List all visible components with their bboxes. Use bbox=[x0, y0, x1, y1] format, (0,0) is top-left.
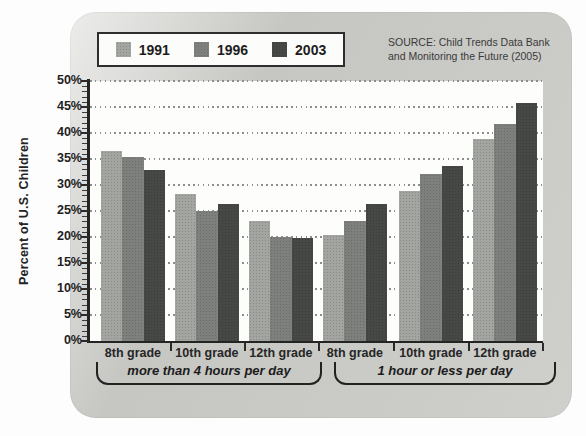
legend-label: 2003 bbox=[295, 42, 326, 58]
x-axis-tick bbox=[468, 343, 470, 351]
bar-2003 bbox=[292, 238, 313, 341]
legend-swatch-1991 bbox=[116, 42, 131, 57]
legend-swatch-1996 bbox=[194, 42, 209, 57]
y-tick-label: 0% bbox=[48, 333, 82, 347]
bar-1996 bbox=[270, 237, 291, 341]
legend-item-2003: 2003 bbox=[272, 42, 326, 58]
y-tick-label: 5% bbox=[48, 307, 82, 321]
y-major-tick bbox=[81, 262, 89, 264]
group-bracket-right: 1 hour or less per day bbox=[334, 362, 556, 385]
y-major-tick bbox=[81, 80, 89, 82]
legend-label: 1991 bbox=[139, 42, 170, 58]
bar-2003 bbox=[366, 204, 387, 341]
y-major-tick bbox=[81, 340, 89, 342]
group-label-right: 1 hour or less per day bbox=[377, 363, 512, 378]
y-tick-label: 20% bbox=[48, 229, 82, 243]
bar-2003 bbox=[218, 204, 239, 341]
bar-1996 bbox=[420, 174, 441, 341]
x-axis-tick bbox=[318, 343, 320, 351]
bar-2003 bbox=[516, 103, 537, 341]
bar-cluster-10th-grade bbox=[175, 81, 239, 341]
group-label-left: more than 4 hours per day bbox=[127, 363, 290, 378]
y-major-tick bbox=[81, 106, 89, 108]
x-axis-label: 12th grade bbox=[241, 346, 321, 360]
bar-1996 bbox=[494, 124, 515, 341]
x-axis-tick bbox=[170, 343, 172, 351]
x-axis-tick bbox=[393, 343, 395, 351]
group-bracket-left: more than 4 hours per day bbox=[96, 362, 322, 385]
y-major-tick bbox=[81, 184, 89, 186]
x-axis-label: 8th grade bbox=[93, 346, 173, 360]
scanned-chart-page: 1991 1996 2003 SOURCE: Child Trends Data… bbox=[0, 0, 586, 436]
y-tick-label: 35% bbox=[48, 151, 82, 165]
y-major-tick bbox=[81, 236, 89, 238]
x-axis-label: 8th grade bbox=[315, 346, 395, 360]
y-tick-label: 45% bbox=[48, 99, 82, 113]
legend-item-1991: 1991 bbox=[116, 42, 170, 58]
y-major-tick bbox=[81, 314, 89, 316]
bar-cluster-10th-grade bbox=[399, 81, 463, 341]
bar-1991 bbox=[473, 139, 494, 341]
bar-cluster-12th-grade bbox=[473, 81, 537, 341]
y-tick-label: 30% bbox=[48, 177, 82, 191]
y-major-tick bbox=[81, 158, 89, 160]
bar-cluster-8th-grade bbox=[323, 81, 387, 341]
legend-item-1996: 1996 bbox=[194, 42, 248, 58]
x-axis-label: 10th grade bbox=[167, 346, 247, 360]
y-tick-label: 15% bbox=[48, 255, 82, 269]
x-axis-label: 10th grade bbox=[391, 346, 471, 360]
bar-1991 bbox=[323, 235, 344, 341]
bar-1991 bbox=[249, 221, 270, 341]
y-tick-label: 50% bbox=[48, 73, 82, 87]
bar-cluster-8th-grade bbox=[101, 81, 165, 341]
bar-2003 bbox=[442, 166, 463, 341]
bar-2003 bbox=[144, 170, 165, 341]
y-major-tick bbox=[81, 288, 89, 290]
y-axis-title: Percent of U.S. Children bbox=[14, 81, 34, 341]
y-tick-label: 25% bbox=[48, 203, 82, 217]
bar-1996 bbox=[344, 221, 365, 341]
y-tick-label: 10% bbox=[48, 281, 82, 295]
source-line-1: SOURCE: Child Trends Data Bank bbox=[388, 35, 574, 49]
y-major-tick bbox=[81, 210, 89, 212]
bar-1991 bbox=[175, 194, 196, 341]
legend: 1991 1996 2003 bbox=[97, 32, 345, 67]
source-note: SOURCE: Child Trends Data Bank and Monit… bbox=[388, 35, 574, 63]
bar-1991 bbox=[101, 151, 122, 341]
legend-swatch-2003 bbox=[272, 42, 287, 57]
bar-1996 bbox=[122, 157, 143, 341]
source-line-2: and Monitoring the Future (2005) bbox=[388, 49, 574, 63]
bar-cluster-12th-grade bbox=[249, 81, 313, 341]
x-axis-line bbox=[87, 341, 543, 343]
legend-label: 1996 bbox=[217, 42, 248, 58]
plot-area bbox=[90, 81, 543, 341]
x-axis-label: 12th grade bbox=[465, 346, 545, 360]
bar-1996 bbox=[196, 211, 217, 341]
bar-1991 bbox=[399, 191, 420, 341]
y-tick-label: 40% bbox=[48, 125, 82, 139]
y-major-tick bbox=[81, 132, 89, 134]
x-axis-tick bbox=[244, 343, 246, 351]
x-axis-tick bbox=[542, 343, 544, 351]
